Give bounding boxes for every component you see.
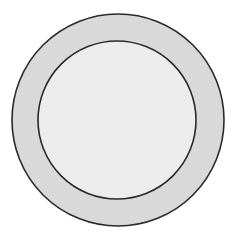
concentric-circles-diagram bbox=[0, 0, 238, 234]
inner-circle bbox=[38, 41, 196, 199]
